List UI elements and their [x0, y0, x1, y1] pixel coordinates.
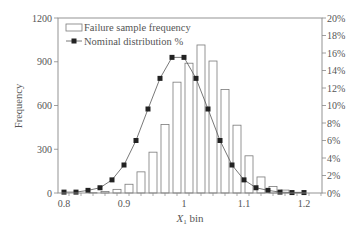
- y2-tick-label: 6%: [327, 135, 340, 146]
- x-tick-label: 0.8: [58, 198, 71, 209]
- line-marker: [86, 188, 91, 193]
- line-marker: [158, 76, 163, 81]
- bar: [125, 184, 133, 193]
- x-axis-label: X1 bin: [175, 212, 204, 226]
- chart: 030060090012000%2%4%6%8%10%12%14%16%18%2…: [0, 0, 360, 239]
- line-marker: [278, 190, 283, 195]
- legend-bar-swatch-icon: [66, 24, 82, 31]
- bar: [233, 125, 241, 193]
- y2-tick-label: 18%: [327, 30, 345, 41]
- bar: [161, 124, 169, 193]
- x-tick-label: 1: [182, 198, 187, 209]
- x-tick-label: 1.2: [298, 198, 311, 209]
- line-path: [64, 57, 304, 192]
- line-marker: [62, 190, 67, 195]
- bar: [113, 189, 121, 193]
- bar: [137, 172, 145, 193]
- line-marker: [206, 107, 211, 112]
- y-tick-label: 0: [47, 188, 52, 199]
- line-marker: [194, 76, 199, 81]
- y-tick-label: 600: [37, 100, 52, 111]
- line-marker: [218, 138, 223, 143]
- line-marker: [230, 163, 235, 168]
- line-marker: [182, 55, 187, 60]
- legend: Failure sample frequency Nominal distrib…: [66, 22, 191, 47]
- legend-label-line: Nominal distribution %: [84, 36, 183, 47]
- bar: [149, 152, 157, 193]
- line-marker: [134, 138, 139, 143]
- y2-tick-label: 8%: [327, 118, 340, 129]
- x-tick-label: 1.1: [238, 198, 251, 209]
- bar: [245, 156, 253, 193]
- y-tick-label: 1200: [32, 13, 52, 24]
- y2-tick-label: 4%: [327, 153, 340, 164]
- y2-tick-label: 0%: [327, 188, 340, 199]
- line-marker: [98, 185, 103, 190]
- bar: [173, 82, 181, 193]
- bar-series-failure-sample-frequency: [89, 45, 301, 193]
- line-marker: [74, 190, 79, 195]
- line-marker: [110, 177, 115, 182]
- y2-tick-label: 12%: [327, 83, 345, 94]
- line-series-nominal-distribution: [62, 55, 307, 195]
- line-marker: [242, 177, 247, 182]
- y2-tick-label: 10%: [327, 100, 345, 111]
- legend-label-bars: Failure sample frequency: [84, 22, 191, 33]
- x-axis-label-rest: bin: [187, 212, 204, 224]
- bar: [185, 63, 193, 193]
- x-tick-label: 0.9: [118, 198, 131, 209]
- y-axis-label: Frequency: [13, 83, 24, 128]
- line-marker: [266, 188, 271, 193]
- bar: [257, 177, 265, 193]
- line-marker: [254, 185, 259, 190]
- y-tick-label: 900: [37, 56, 52, 67]
- line-marker: [170, 55, 175, 60]
- y-tick-label: 300: [37, 144, 52, 155]
- y2-tick-label: 16%: [327, 48, 345, 59]
- bar: [197, 45, 205, 193]
- legend-marker-icon: [72, 39, 77, 44]
- line-marker: [122, 163, 127, 168]
- y2-tick-label: 2%: [327, 170, 340, 181]
- line-marker: [146, 107, 151, 112]
- y2-tick-label: 14%: [327, 65, 345, 76]
- y2-tick-label: 20%: [327, 13, 345, 24]
- bar: [209, 61, 217, 193]
